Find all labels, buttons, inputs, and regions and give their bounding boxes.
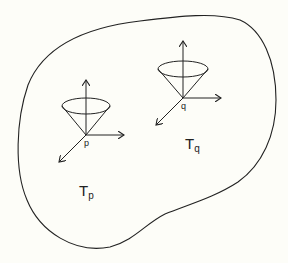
tangent-space-label-q: Tq	[185, 136, 200, 154]
tangent-label-main-q: T	[185, 135, 194, 152]
diagram-svg	[0, 0, 288, 263]
point-label-q: q	[181, 102, 186, 111]
axes-p	[59, 80, 124, 162]
axis-diag-arrow-p	[59, 135, 86, 162]
manifold-outline	[18, 15, 276, 248]
tangent-label-main-p: T	[79, 182, 88, 199]
point-label-p: p	[84, 139, 89, 148]
tangent-space-label-p: Tp	[79, 183, 94, 201]
tangent-label-sub-q: q	[194, 143, 200, 154]
axis-diag-arrow-q	[156, 98, 183, 125]
diagram-canvas: p q Tp Tq	[0, 0, 288, 263]
axes-q	[156, 41, 221, 125]
tangent-label-sub-p: p	[88, 190, 94, 201]
